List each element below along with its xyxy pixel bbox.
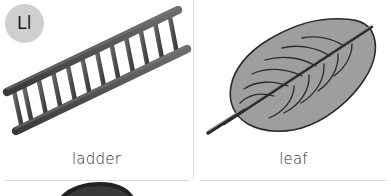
- leaf-blade: [230, 19, 375, 132]
- leaf-stem: [208, 108, 244, 133]
- leaf-artwork: [196, 0, 391, 148]
- flashcard-label-ladder: ladder: [0, 150, 193, 168]
- next-row-partial-artwork: [0, 181, 193, 196]
- row-divider-right: [200, 180, 387, 181]
- flashcard-ladder[interactable]: Ll ladder: [0, 0, 193, 181]
- flashcard-grid: Ll ladder: [0, 0, 391, 196]
- letter-badge-label: Ll: [17, 15, 32, 32]
- flashcard-page: Ll ladder: [0, 0, 391, 196]
- flashcard-leaf[interactable]: leaf: [196, 0, 391, 181]
- column-divider: [193, 0, 194, 179]
- flashcard-label-leaf: leaf: [196, 150, 391, 168]
- letter-badge: Ll: [5, 4, 44, 43]
